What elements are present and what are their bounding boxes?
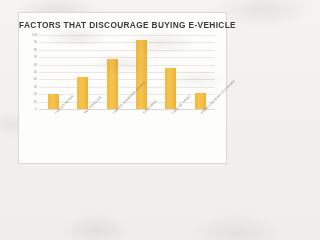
y-axis-tick-label: 10 xyxy=(34,100,37,104)
bar xyxy=(136,40,147,109)
y-axis-tick-label: 40 xyxy=(34,77,37,81)
y-axis-tick-label: 30 xyxy=(34,85,37,89)
chart-frame: FACTORS THAT DISCOURAGE BUYING E-VEHICLE… xyxy=(18,12,227,164)
bar-slot xyxy=(39,35,68,109)
category-slot: NOT POPULAR xyxy=(68,111,97,161)
bar xyxy=(107,59,118,109)
y-axis-tick-label: 100 xyxy=(32,33,37,37)
bar xyxy=(77,77,88,109)
y-axis-tick-label: 60 xyxy=(34,63,37,67)
bar-slot xyxy=(156,35,185,109)
gridline xyxy=(39,109,215,110)
x-axis-category-labels: LIMITED RANGENOT POPULARLIMITED CHARGING… xyxy=(39,111,215,161)
scanned-paper-background: FACTORS THAT DISCOURAGE BUYING E-VEHICLE… xyxy=(0,0,245,177)
y-axis-tick-label: 90 xyxy=(34,40,37,44)
category-slot: LIMITED RANGE xyxy=(39,111,68,161)
chart-title: FACTORS THAT DISCOURAGE BUYING E-VEHICLE xyxy=(19,20,226,30)
y-axis-tick-label: 0 xyxy=(35,107,37,111)
y-axis-tick-label: 80 xyxy=(34,48,37,52)
category-slot: EXPENSIVE xyxy=(127,111,156,161)
category-slot: LACK OF TRUST xyxy=(156,111,185,161)
category-slot: LIMITED CHARGING POINTS xyxy=(98,111,127,161)
y-axis-tick-label: 50 xyxy=(34,70,37,74)
y-axis-tick-label: 70 xyxy=(34,55,37,59)
y-axis-tick-label: 20 xyxy=(34,92,37,96)
bar xyxy=(165,68,176,109)
category-slot: UNWILLINGNESS TO CHANGE xyxy=(186,111,215,161)
